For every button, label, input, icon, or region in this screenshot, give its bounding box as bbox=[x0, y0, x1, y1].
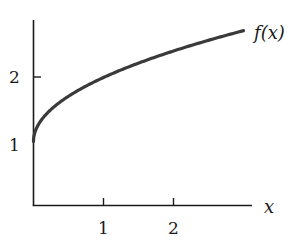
y-tick-label-1: 1 bbox=[9, 135, 20, 155]
x-axis-label: x bbox=[264, 196, 274, 217]
x-tick-label-2: 2 bbox=[168, 218, 179, 238]
x-tick-label-1: 1 bbox=[98, 218, 109, 238]
function-plot: 2 1 1 2 x f(x) bbox=[0, 0, 296, 246]
curve-f-of-x bbox=[34, 31, 244, 142]
curve-label: f(x) bbox=[252, 22, 285, 43]
y-tick-label-2: 2 bbox=[9, 67, 20, 87]
